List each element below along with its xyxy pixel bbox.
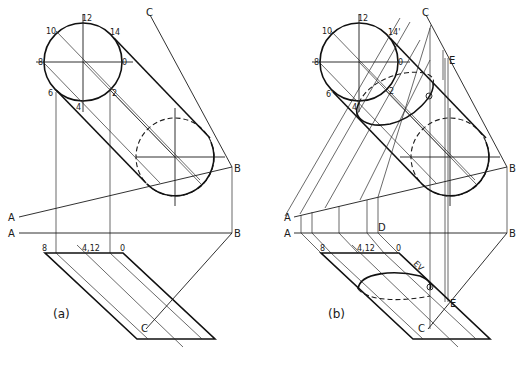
label-C-bottom: C: [418, 323, 425, 334]
element-line: [110, 90, 175, 157]
label-B-lower: B: [509, 228, 516, 239]
label-D: D: [378, 222, 386, 233]
bottom-circle-visible-arc: [422, 142, 489, 196]
label-10: 10: [46, 27, 56, 36]
label-C-top: C: [422, 7, 429, 18]
plan-label-4-12: 4,12: [82, 244, 100, 253]
label-C-top: C: [146, 7, 153, 18]
panel-a-labels: 12 10 14 8 0 6 4 2 C B A A B: [8, 7, 241, 239]
label-C-bottom: C: [141, 323, 148, 334]
label-14: 14': [388, 28, 400, 37]
drop-slant: [301, 233, 321, 253]
label-4: 4: [76, 103, 81, 112]
cylinder-upper-limb: [114, 38, 210, 138]
label-E-top: E: [449, 55, 455, 66]
label-6: 6': [326, 90, 333, 99]
label-2: 2: [389, 87, 394, 96]
line-AB-front: [294, 167, 507, 217]
plan-label-8: 8: [320, 244, 325, 253]
label-A-upper: A: [284, 212, 291, 223]
plan-label-0: 0: [396, 244, 401, 253]
label-12: 12: [358, 14, 368, 23]
bottom-circle-visible-arc: [147, 142, 214, 196]
label-B-lower: B: [234, 228, 241, 239]
label-10: 10: [322, 27, 332, 36]
section-ellipse-visible: [357, 83, 433, 125]
descriptive-geometry-figure: 12 10 14 8 0 6 4 2 C B A A B 8 4,12 0 C: [0, 0, 524, 366]
label-B-upper: B: [234, 163, 241, 174]
label-A-lower: A: [284, 228, 291, 239]
plan-label-8: 8: [42, 244, 47, 253]
panel-a-top-view: 8 4,12 0 C (a): [42, 233, 232, 347]
cylinder-lower-limb: [56, 90, 146, 183]
panel-a: 12 10 14 8 0 6 4 2 C B A A B 8 4,12 0 C: [8, 7, 241, 347]
plan-label-4-12: 4,12: [357, 244, 375, 253]
plan-label-0: 0: [120, 244, 125, 253]
panel-b-labels: 12 10 14' 8 0 6' 4' 2 C E B A A D B: [284, 7, 516, 239]
line-CB-top: [428, 233, 507, 329]
element-line: [331, 253, 423, 339]
edge-view-label: EV: [412, 259, 426, 273]
caption-b: (b): [328, 307, 345, 321]
label-8: 8: [38, 58, 43, 67]
label-4: 4': [352, 103, 359, 112]
cylinder-upper-limb: [390, 38, 486, 138]
label-14: 14: [110, 28, 120, 37]
panel-b: 12 10 14' 8 0 6' 4' 2 C E B A A D B: [284, 7, 516, 347]
label-12: 12: [82, 14, 92, 23]
panel-a-front-view: [19, 14, 232, 253]
label-0: 0: [398, 58, 403, 67]
element-line: [56, 253, 148, 339]
drop-slant: [339, 233, 358, 253]
label-A-lower: A: [8, 228, 15, 239]
line-AB-front: [19, 167, 232, 217]
label-6: 6: [48, 89, 53, 98]
label-2: 2: [112, 89, 117, 98]
label-0: 0: [122, 58, 127, 67]
trace-line: [378, 25, 431, 197]
trace-line: [285, 18, 400, 216]
label-E-bottom: E: [450, 298, 456, 309]
label-A-upper: A: [8, 212, 15, 223]
trace-line: [300, 22, 410, 214]
panel-b-top-view: 8 4,12 0 EV E C (b): [301, 233, 507, 347]
label-B-upper: B: [509, 163, 516, 174]
caption-a: (a): [53, 307, 70, 321]
label-8: 8: [314, 58, 319, 67]
